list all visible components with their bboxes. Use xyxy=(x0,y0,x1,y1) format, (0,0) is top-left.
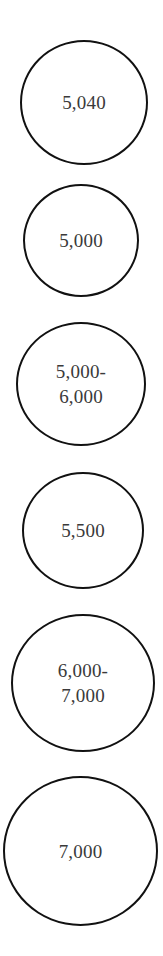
node-label: 5,500 xyxy=(61,518,105,543)
node-label: 5,000 xyxy=(59,228,103,253)
circle-node-5500: 5,500 xyxy=(22,472,144,589)
node-label: 6,000- 7,000 xyxy=(58,658,108,708)
node-label: 5,040 xyxy=(62,90,106,115)
node-label: 7,000 xyxy=(59,839,103,864)
circle-node-6000-7000: 6,000- 7,000 xyxy=(11,614,155,752)
node-label: 5,000- 6,000 xyxy=(56,359,106,409)
circle-node-5000-6000: 5,000- 6,000 xyxy=(16,322,146,446)
circle-node-5040: 5,040 xyxy=(20,40,148,165)
circle-node-5000: 5,000 xyxy=(23,184,139,297)
circle-node-7000: 7,000 xyxy=(3,776,158,926)
